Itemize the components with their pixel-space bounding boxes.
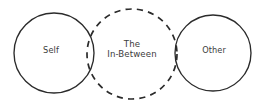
self-circle-label: Self bbox=[18, 45, 84, 55]
in-between-label-line-2: In-Between bbox=[96, 49, 168, 59]
diagram-canvas: Self The In-Between Other bbox=[0, 0, 264, 107]
in-between-circle-label: The In-Between bbox=[96, 39, 168, 60]
in-between-label-line-1: The bbox=[124, 39, 140, 49]
other-circle-label: Other bbox=[181, 45, 247, 55]
